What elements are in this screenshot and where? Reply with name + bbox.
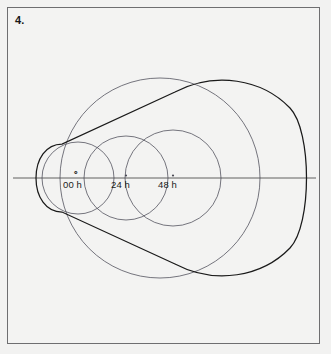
label-00h: 00 h <box>63 179 82 190</box>
center-dot-24h <box>125 174 127 176</box>
center-dot-48h <box>172 174 174 176</box>
label-48h: 48 h <box>158 179 177 190</box>
symbol-00h-icon: ⚬ <box>72 168 80 178</box>
diagram-canvas <box>0 0 331 354</box>
label-24h: 24 h <box>111 179 130 190</box>
figure-page: 4. ⚬ 00 h 24 h 48 h <box>0 0 331 354</box>
